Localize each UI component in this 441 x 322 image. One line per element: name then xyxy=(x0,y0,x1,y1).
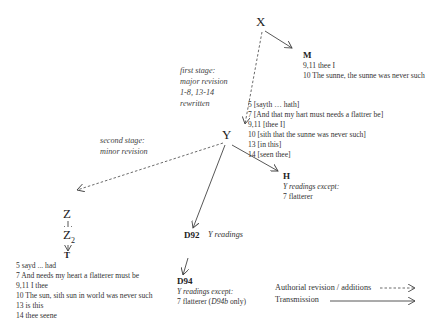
node-d94-readings: Y readings except: 7 flatterer (D94b onl… xyxy=(177,287,246,307)
reading-line: 7 flatterer (D94b only) xyxy=(177,297,246,307)
legend-authorial-label: Authorial revision / additions xyxy=(275,282,371,294)
node-m: M xyxy=(303,50,312,60)
first-stage-annotation: first stage: major revision 1-8, 13-14 r… xyxy=(180,65,228,109)
reading-line: 13 [in this] xyxy=(248,140,383,150)
reading-line: 7 [And that my hart must needs a flattre… xyxy=(248,110,383,120)
reading-line: 10 The sunne, the sunne was never such xyxy=(303,71,425,81)
reading-caption: Y readings except: xyxy=(177,287,246,297)
edge-x-m xyxy=(265,31,292,48)
reading-line: 5 [sayth … hath] xyxy=(248,100,383,110)
reading-line: 14 [seen thee] xyxy=(248,150,383,160)
node-h-readings: Y readings except: 7 flatterer xyxy=(283,182,339,202)
reading-line: 7 And needs my heart a flatterer must be xyxy=(16,271,153,281)
node-h: H xyxy=(283,171,290,181)
reading-line: 5 sayd ... had xyxy=(16,261,153,271)
edge-y-z xyxy=(77,143,223,190)
reading-line: 7 flatterer xyxy=(283,192,339,202)
node-y-readings: 5 [sayth … hath] 7 [And that my hart mus… xyxy=(248,100,383,159)
node-t-readings: 5 sayd ... had 7 And needs my heart a fl… xyxy=(16,261,153,320)
reading-line: 9,11 thee I xyxy=(303,61,425,71)
second-stage-annotation: second stage: minor revision xyxy=(100,135,148,157)
reading-line: 14 thee seene xyxy=(16,311,153,321)
node-y: Y xyxy=(222,127,231,143)
reading-line: 9,11 [thee I] xyxy=(248,120,383,130)
reading-line: 10 [sith that the sunne was never such] xyxy=(248,130,383,140)
edge-d92-d94 xyxy=(183,258,188,275)
reading-caption: Y readings except: xyxy=(283,182,339,192)
reading-line: 10 The sun, sith sun in world was never … xyxy=(16,291,153,301)
node-d94: D94 xyxy=(177,276,193,286)
node-d92-caption: Y readings xyxy=(208,230,243,240)
node-d92: D92 xyxy=(184,230,200,240)
reading-line: 9,11 I thee xyxy=(16,281,153,291)
legend-transmission-label: Transmission xyxy=(275,294,371,306)
node-t: T xyxy=(64,250,70,260)
legend: Authorial revision / additions Transmiss… xyxy=(275,282,371,306)
node-z2: Z2 xyxy=(63,227,75,245)
node-x: X xyxy=(256,14,265,30)
node-m-readings: 9,11 thee I 10 The sunne, the sunne was … xyxy=(303,61,425,81)
edge-y-d92 xyxy=(193,145,225,228)
reading-line: 13 is this xyxy=(16,301,153,311)
node-z: Z xyxy=(63,206,71,222)
